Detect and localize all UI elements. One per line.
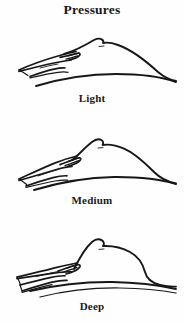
pressure-panel-light: Light [0, 20, 184, 104]
panel-label-medium: Medium [0, 194, 184, 206]
panel-label-deep: Deep [0, 300, 184, 312]
mound-contour-deep [74, 239, 176, 286]
medium-pressure-illustration [0, 122, 184, 194]
figure-title: Pressures [0, 2, 184, 18]
pressure-panel-deep: Deep [0, 225, 184, 312]
light-pressure-illustration [0, 20, 184, 92]
base-contour-medium [34, 177, 176, 190]
deep-pressure-illustration [0, 225, 184, 300]
fingertip-taper-b-deep [20, 285, 22, 291]
tissue-fold-deep [40, 288, 176, 297]
base-contour-light [36, 74, 176, 86]
pressures-figure: Pressures Light [0, 0, 184, 322]
hand-lower-edge-light [19, 60, 71, 71]
hand-detail-medium [38, 169, 59, 176]
apex-marker-light [99, 46, 104, 47]
pressure-panel-medium: Medium [0, 122, 184, 206]
panel-label-light: Light [0, 92, 184, 104]
